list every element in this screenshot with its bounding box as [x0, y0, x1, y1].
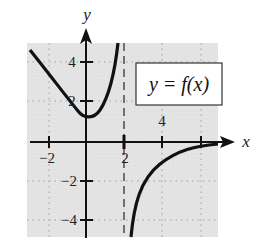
x-tick-2: 2: [121, 150, 129, 166]
x-tick-neg2: −2: [39, 150, 55, 166]
y-tick-neg4: −4: [61, 212, 77, 228]
x-tick-4: 4: [158, 113, 166, 129]
y-tick-2: 2: [68, 93, 76, 109]
y-tick-4: 4: [68, 54, 76, 70]
y-tick-neg2: −2: [61, 173, 77, 189]
y-axis-label: y: [81, 5, 91, 24]
legend-text: y = f(x): [147, 73, 209, 96]
function-graph: 4 2 −2 −4 −2 2 4 y x y = f(x): [0, 0, 258, 252]
x-axis-label: x: [241, 132, 250, 151]
legend-box: y = f(x): [136, 63, 222, 105]
